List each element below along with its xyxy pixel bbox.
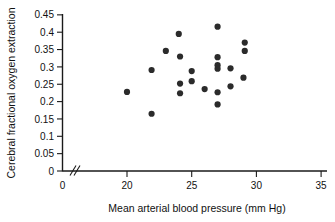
y-tick-label: 0.2 [40, 96, 54, 107]
data-point [163, 48, 169, 54]
y-tick-label: 0.1 [40, 131, 54, 142]
y-axis: 00.050.10.150.20.250.30.350.40.45 [35, 9, 63, 176]
plot-canvas: 00.050.10.150.20.250.30.350.40.45 020253… [0, 0, 335, 222]
x-axis-tick-labels: 020253035 [60, 180, 327, 191]
data-point [214, 24, 220, 30]
y-tick-label: 0.3 [40, 62, 54, 73]
data-point [177, 90, 183, 96]
data-point [177, 53, 183, 59]
y-axis-ticks [57, 15, 63, 171]
data-point [214, 89, 220, 95]
y-axis-tick-labels: 00.050.10.150.20.250.30.350.40.45 [35, 9, 55, 176]
data-point [189, 68, 195, 74]
data-point [176, 31, 182, 37]
data-point [242, 48, 248, 54]
data-point [124, 89, 130, 95]
scatter-plot-figure: 00.050.10.150.20.250.30.350.40.45 020253… [0, 0, 335, 222]
data-point [240, 75, 246, 81]
data-point [242, 40, 248, 46]
x-tick-label: 0 [60, 180, 66, 191]
x-tick-label: 20 [121, 180, 133, 191]
y-tick-label: 0.4 [40, 27, 54, 38]
data-point [148, 67, 154, 73]
y-tick-label: 0.15 [35, 114, 55, 125]
y-axis-title: Cerebral fractional oxygen extraction [5, 7, 17, 178]
x-tick-label: 30 [251, 180, 263, 191]
data-point [177, 80, 183, 86]
x-axis-title: Mean arterial blood pressure (mm Hg) [108, 202, 285, 214]
data-points [124, 24, 248, 117]
data-point [227, 83, 233, 89]
x-tick-label: 25 [186, 180, 198, 191]
x-axis-ticks [127, 171, 321, 177]
data-point [227, 65, 233, 71]
x-tick-label: 35 [316, 180, 328, 191]
data-point [214, 54, 220, 60]
x-axis: 020253035 [60, 166, 327, 192]
data-point [214, 101, 220, 107]
y-tick-label: 0.35 [35, 44, 55, 55]
data-point [189, 78, 195, 84]
y-tick-label: 0.25 [35, 79, 55, 90]
y-tick-label: 0 [48, 166, 54, 177]
y-tick-label: 0.05 [35, 148, 55, 159]
data-point [148, 111, 154, 117]
y-tick-label: 0.45 [35, 9, 55, 20]
data-point [214, 66, 220, 72]
data-point [202, 86, 208, 92]
